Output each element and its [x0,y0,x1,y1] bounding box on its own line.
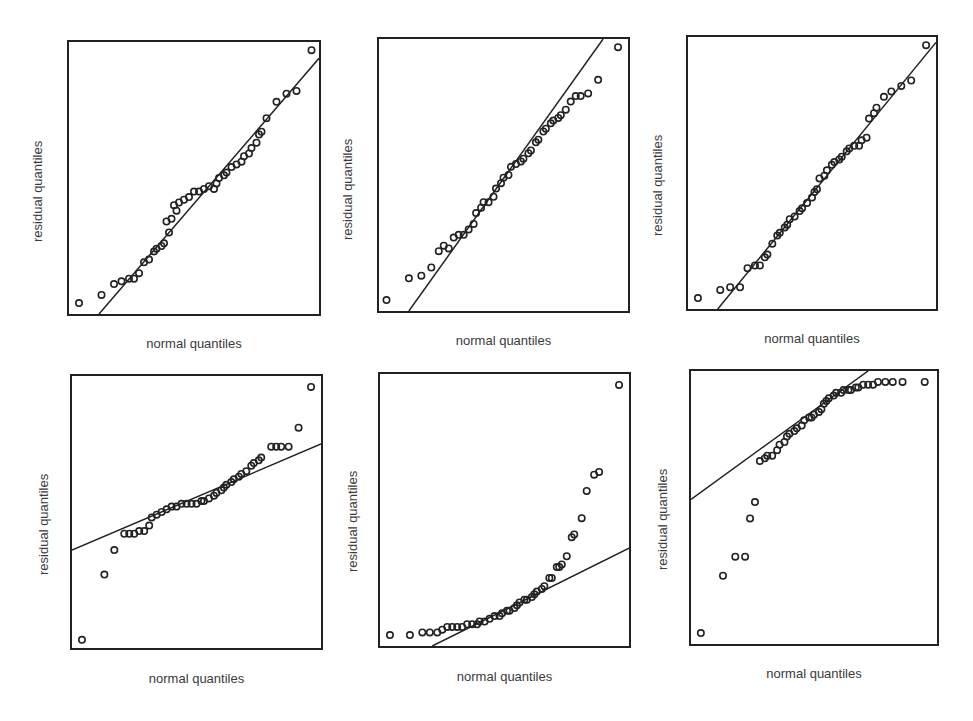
qq-plot-5 [380,374,629,646]
y-axis-label-6: residual quantiles [655,469,670,570]
data-point [698,630,704,636]
x-axis-label-3: normal quantiles [686,331,938,346]
data-point [747,515,753,521]
data-point [564,553,570,559]
y-axis-label-2: residual quantiles [340,139,355,240]
data-point [890,379,896,385]
data-point [881,94,887,100]
qq-plot-6 [691,371,937,644]
data-point [293,88,299,94]
data-point [727,284,733,290]
data-point [583,488,589,494]
data-point [387,632,393,638]
data-point [899,379,905,385]
y-axis-label-5: residual quantiles [345,471,360,572]
data-point [248,145,254,151]
data-point [418,272,424,278]
y-axis-label-3: residual quantiles [650,135,665,236]
x-axis-label-5: normal quantiles [378,669,631,684]
reference-line [72,444,321,550]
data-point [118,278,124,284]
data-point [695,295,701,301]
reference-line [432,548,629,646]
data-point [824,167,830,173]
qq-plot-2 [379,39,628,311]
data-point [595,77,601,83]
data-point [615,44,621,50]
data-point [428,264,434,270]
data-point [744,265,750,271]
x-axis-label-1: normal quantiles [67,336,321,351]
data-point [146,522,152,528]
data-point [616,382,622,388]
data-point [253,139,259,145]
data-point [308,384,314,390]
qq-plot-1 [69,42,319,314]
data-point [717,287,723,293]
data-point [585,90,591,96]
data-point [295,424,301,430]
data-point [427,629,433,635]
data-point [76,300,82,306]
plot-area-3 [686,35,938,311]
data-point [752,499,758,505]
data-point [882,379,888,385]
y-axis-label-4: residual quantiles [36,474,51,575]
plot-area-6 [689,369,939,646]
data-point [136,270,142,276]
data-point [742,553,748,559]
data-point [407,632,413,638]
qq-plot-3 [688,37,936,309]
y-axis-label-1: residual quantiles [30,141,45,242]
data-point [873,105,879,111]
plot-area-5 [378,372,631,648]
data-point [737,284,743,290]
data-point [436,248,442,254]
data-point [308,47,314,53]
x-axis-label-6: normal quantiles [689,666,939,681]
plot-area-2 [377,37,630,313]
data-point [406,275,412,281]
data-point [563,107,569,113]
data-point [578,515,584,521]
data-point [568,98,574,104]
data-point [908,77,914,83]
data-point [98,292,104,298]
data-point [866,115,872,121]
x-axis-label-2: normal quantiles [377,333,630,348]
data-point [111,547,117,553]
data-point [101,571,107,577]
data-point [888,88,894,94]
data-point [111,281,117,287]
data-point [383,297,389,303]
data-point [79,637,85,643]
plot-area-4 [70,374,323,650]
x-axis-label-4: normal quantiles [70,671,323,686]
plot-area-1 [67,40,321,316]
data-point [923,42,929,48]
data-point [720,573,726,579]
data-point [419,629,425,635]
data-point [922,379,928,385]
qq-plot-4 [72,376,321,648]
data-point [273,99,279,105]
data-point [285,444,291,450]
data-point [732,553,738,559]
